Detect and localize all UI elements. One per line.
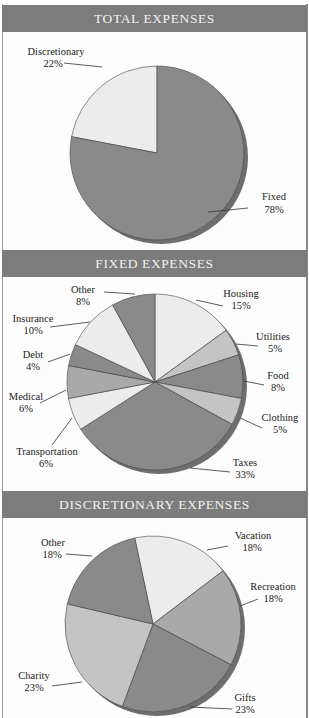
total-expenses-pie-chart: Discretionary 22% Fixed 78%	[0, 0, 309, 245]
label-debt-name: Debt	[23, 349, 43, 360]
discretionary-expenses-header: DISCRETIONARY EXPENSES	[2, 491, 307, 518]
fixed-expenses-pie-chart: Housing 15% Utilities 5% Food 8% Clothin…	[0, 277, 309, 489]
label-recreation-pct: 18%	[263, 593, 283, 604]
label-vacation-pct: 18%	[242, 542, 262, 553]
label-insurance-name: Insurance	[13, 313, 54, 324]
label-debt-pct: 4%	[26, 361, 40, 372]
label-food-pct: 8%	[271, 382, 285, 393]
label-fixed-name: Fixed	[262, 191, 287, 202]
label-fixed-pct: 78%	[264, 204, 284, 215]
label-transportation-pct: 6%	[39, 458, 53, 469]
fixed-expenses-header: FIXED EXPENSES	[2, 250, 307, 277]
label-housing-name: Housing	[223, 288, 259, 299]
label-food-name: Food	[267, 370, 289, 381]
label-taxes-pct: 33%	[235, 469, 255, 480]
label-vacation-name: Vacation	[235, 530, 272, 541]
label-utilities-name: Utilities	[256, 331, 290, 342]
label-other-name: Other	[71, 284, 95, 295]
label-gifts-name: Gifts	[235, 692, 256, 703]
label-clothing-pct: 5%	[273, 424, 287, 435]
label-housing-pct: 15%	[231, 300, 251, 311]
label-recreation-name: Recreation	[250, 581, 296, 592]
label-charity-name: Charity	[18, 670, 50, 681]
label-discretionary-name: Discretionary	[27, 46, 85, 57]
label-other-name: Other	[41, 537, 65, 548]
label-medical-name: Medical	[9, 391, 43, 402]
label-discretionary-pct: 22%	[43, 58, 63, 69]
label-utilities-pct: 5%	[268, 343, 282, 354]
label-gifts-pct: 23%	[235, 704, 255, 715]
label-charity-pct: 23%	[24, 682, 44, 693]
label-other-pct: 18%	[42, 549, 62, 560]
discretionary-expenses-pie-chart: Vacation 18% Recreation 18% Gifts 23% Ch…	[0, 518, 309, 718]
label-insurance-pct: 10%	[23, 325, 43, 336]
label-transportation-name: Transportation	[16, 446, 78, 457]
label-clothing-name: Clothing	[262, 412, 300, 423]
label-taxes-name: Taxes	[233, 457, 257, 468]
label-medical-pct: 6%	[19, 403, 33, 414]
label-other-pct: 8%	[76, 296, 90, 307]
